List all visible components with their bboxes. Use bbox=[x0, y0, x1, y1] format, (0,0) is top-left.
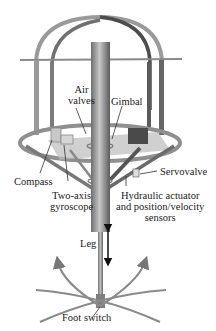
label-gyroscope: Two-axis gyroscope bbox=[50, 190, 93, 212]
label-hydraulic-line3: sensors bbox=[116, 212, 204, 223]
label-gyroscope-line1: Two-axis bbox=[50, 190, 93, 201]
diagram-canvas: Air valves Gimbal Compass Servovalve Two… bbox=[0, 0, 216, 331]
label-compass: Compass bbox=[14, 176, 53, 187]
label-air-valves-line1: Air bbox=[68, 84, 95, 95]
label-gyroscope-line2: gyroscope bbox=[50, 201, 93, 212]
label-foot-switch: Foot switch bbox=[62, 312, 111, 323]
label-gimbal: Gimbal bbox=[111, 96, 143, 107]
leg-column bbox=[91, 42, 110, 308]
label-air-valves: Air valves bbox=[68, 84, 95, 106]
label-hydraulic-line1: Hydraulic actuator bbox=[116, 190, 204, 201]
label-hydraulic-actuator: Hydraulic actuator and position/velocity… bbox=[116, 190, 204, 223]
label-leg: Leg bbox=[80, 238, 96, 249]
label-servovalve: Servovalve bbox=[160, 166, 207, 177]
label-hydraulic-line2: and position/velocity bbox=[116, 201, 204, 212]
label-air-valves-line2: valves bbox=[68, 95, 95, 106]
